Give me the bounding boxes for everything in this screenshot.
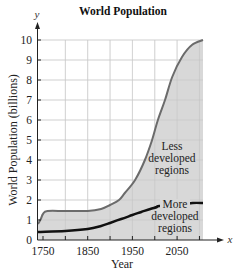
less-label-line3: regions xyxy=(155,164,189,177)
y-tick-label: 1 xyxy=(26,214,32,226)
more-label-line1: More xyxy=(163,198,188,210)
chart-title: World Population xyxy=(79,5,167,18)
y-tick-label: 8 xyxy=(26,74,32,86)
y-axis-arrow-icon xyxy=(35,22,40,29)
y-tick-label: 2 xyxy=(26,194,32,206)
x-tick-label: 2050 xyxy=(166,245,189,257)
y-tick-label: 7 xyxy=(26,94,32,106)
y-axis-label: World Population (billions) xyxy=(6,74,20,206)
x-axis-variable: x xyxy=(227,233,233,245)
y-tick-label: 10 xyxy=(21,34,33,46)
y-tick-label: 3 xyxy=(26,174,32,186)
y-tick-label: 5 xyxy=(26,134,32,146)
x-tick-label: 1850 xyxy=(76,245,99,257)
y-tick-label: 4 xyxy=(26,154,32,166)
y-tick-label: 9 xyxy=(26,54,32,66)
y-axis-variable: y xyxy=(34,8,40,20)
world-population-chart: World Population 01234567891017501850195… xyxy=(0,0,238,275)
x-axis-label: Year xyxy=(111,257,133,271)
less-label-line1: Less xyxy=(161,140,183,152)
x-axis-arrow-icon xyxy=(217,238,224,243)
x-tick-label: 1950 xyxy=(121,245,144,257)
more-label-line3: regions xyxy=(158,222,192,235)
y-tick-label: 6 xyxy=(26,114,32,126)
x-tick-label: 1750 xyxy=(32,245,55,257)
